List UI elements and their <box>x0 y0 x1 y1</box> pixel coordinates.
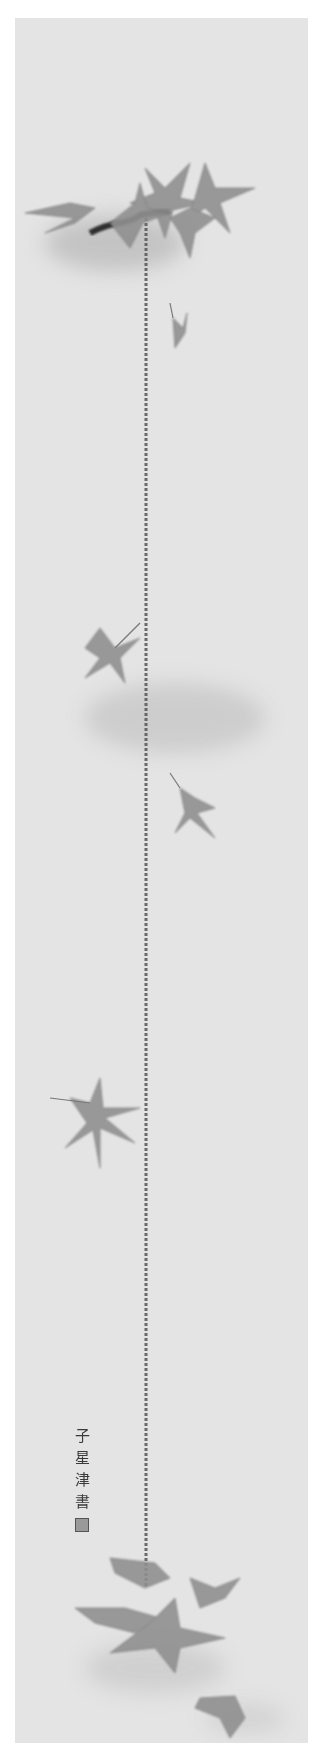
signature-char: 星 <box>75 1450 90 1466</box>
signature-char: 津 <box>75 1472 90 1488</box>
artist-signature: 子 星 津 書 <box>71 1428 93 1532</box>
signature-char: 書 <box>75 1494 90 1510</box>
scroll-paper: 子 星 津 書 <box>15 18 308 1743</box>
painting-canvas <box>15 18 308 1743</box>
signature-char: 子 <box>75 1428 90 1444</box>
seal-stamp-icon <box>75 1518 89 1532</box>
